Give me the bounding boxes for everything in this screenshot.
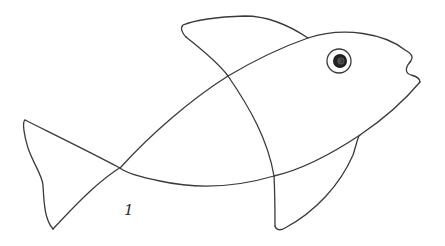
lower-body-line <box>25 120 360 186</box>
figure-number-label: 1 <box>124 201 134 219</box>
tail-fin-edge <box>24 120 53 229</box>
fish-drawing <box>0 0 445 246</box>
lower-jaw-line <box>360 82 420 135</box>
eye-icon <box>327 49 351 73</box>
pelvic-fin <box>275 136 359 230</box>
division-curve <box>186 37 275 226</box>
dorsal-fin <box>182 16 308 38</box>
upper-body-line <box>53 32 412 229</box>
mouth <box>406 62 420 82</box>
